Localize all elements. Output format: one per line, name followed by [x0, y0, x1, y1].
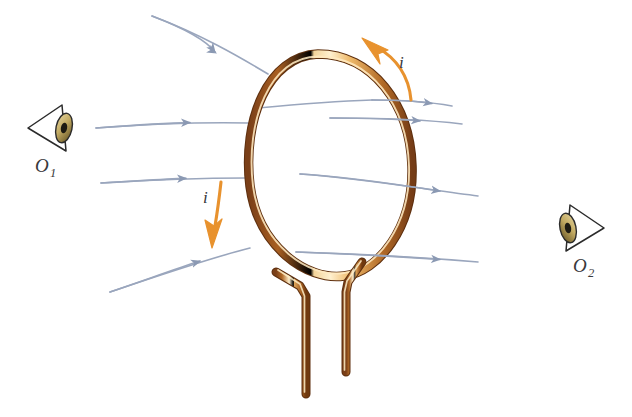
physics-diagram-canvas: i i O 1 O [0, 0, 632, 417]
current-arrow-left-shaft [215, 182, 221, 226]
field-line-3-right-seg [300, 174, 440, 191]
field-line-5 [258, 100, 372, 108]
current-label-left: i [203, 188, 208, 207]
field-line-4-seg [110, 261, 200, 292]
eye-icon-observer-1 [28, 105, 75, 151]
current-arrow-top-head [362, 38, 388, 64]
eye-icon-observer-2 [557, 205, 604, 251]
current-loop [249, 54, 413, 276]
observer-2-subscript: 2 [588, 266, 594, 280]
field-line-4-right-seg [296, 252, 440, 260]
field-line-5-right-seg [372, 100, 432, 104]
field-line-1 [152, 16, 268, 74]
field-line-1-seg [152, 16, 215, 52]
observer-1-label: O [35, 155, 49, 176]
observer-2: O 2 [557, 205, 604, 280]
field-lines-foreground [296, 100, 478, 262]
observer-2-label: O [573, 255, 587, 276]
observer-1: O 1 [28, 105, 75, 180]
field-line-2-seg [96, 123, 190, 128]
loop-leads-group [276, 261, 362, 394]
current-arrow-left-head [205, 219, 222, 248]
figure-root: i i O 1 O [0, 0, 632, 417]
current-label-top: i [399, 53, 404, 72]
field-line-3-right [300, 174, 478, 196]
observer-1-subscript: 1 [50, 166, 56, 180]
field-line-3-seg [101, 178, 186, 183]
